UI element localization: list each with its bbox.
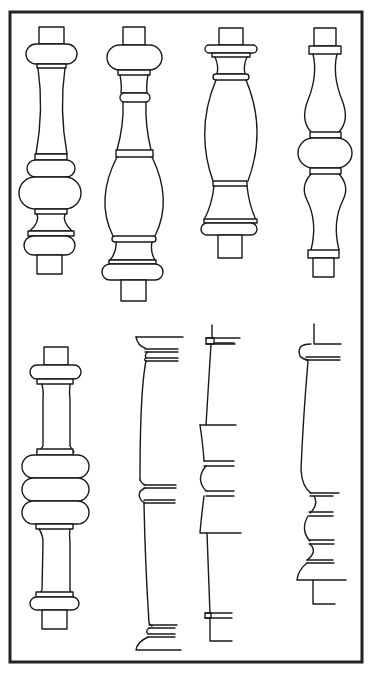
profile-1 [136,337,183,650]
illustration-svg [0,0,372,678]
baluster-5 [22,347,89,629]
profile-2 [200,325,241,641]
baluster-3 [201,28,257,258]
profile-3 [297,324,346,604]
baluster-1 [19,27,81,274]
baluster-illustration [0,0,372,678]
baluster-2 [102,27,163,301]
baluster-4 [298,28,352,277]
